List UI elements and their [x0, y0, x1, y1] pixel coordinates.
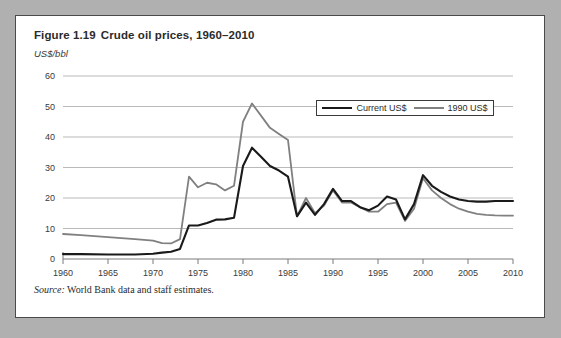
y-tick-label: 20: [45, 193, 55, 203]
y-tick-label: 0: [50, 254, 55, 264]
x-tick-label: 1975: [188, 268, 208, 278]
x-tick-label: 1995: [368, 268, 388, 278]
line-chart: 0102030405060 19601965197019751980198519…: [16, 16, 546, 319]
source-text: World Bank data and staff estimates.: [67, 284, 214, 295]
x-tick-marks: [63, 259, 513, 264]
source-note: Source: World Bank data and staff estima…: [34, 284, 214, 295]
x-tick-label: 1990: [323, 268, 343, 278]
chart-canvas: 0102030405060 19601965197019751980198519…: [16, 16, 546, 319]
x-tick-label: 1960: [53, 268, 73, 278]
gridlines: [63, 76, 513, 229]
x-tick-label: 2005: [458, 268, 478, 278]
legend-label-current: Current US$: [356, 103, 406, 113]
x-tick-labels: 1960196519701975198019851990199520002005…: [53, 268, 523, 278]
y-tick-labels: 0102030405060: [45, 71, 55, 264]
x-tick-label: 1970: [143, 268, 163, 278]
x-tick-label: 1980: [233, 268, 253, 278]
legend-entry-1990-usd: 1990 US$: [414, 103, 488, 113]
y-tick-label: 30: [45, 163, 55, 173]
legend-swatch-icon-1990: [414, 107, 444, 109]
x-tick-label: 1985: [278, 268, 298, 278]
legend-entry-current-usd: Current US$: [322, 103, 406, 113]
figure-panel: Figure 1.19Crude oil prices, 1960–2010 U…: [15, 15, 545, 318]
y-tick-label: 10: [45, 224, 55, 234]
legend-label-1990: 1990 US$: [448, 103, 488, 113]
y-tick-label: 50: [45, 102, 55, 112]
y-tick-label: 60: [45, 71, 55, 81]
x-tick-label: 2010: [503, 268, 523, 278]
series-line-1990-usd: [63, 103, 513, 243]
source-label: Source:: [34, 284, 65, 295]
chart-legend: Current US$ 1990 US$: [316, 100, 494, 116]
y-tick-label: 40: [45, 132, 55, 142]
x-tick-label: 2000: [413, 268, 433, 278]
legend-swatch-icon-current: [322, 107, 352, 109]
x-tick-label: 1965: [98, 268, 118, 278]
screenshot-page: Figure 1.19Crude oil prices, 1960–2010 U…: [0, 0, 561, 338]
